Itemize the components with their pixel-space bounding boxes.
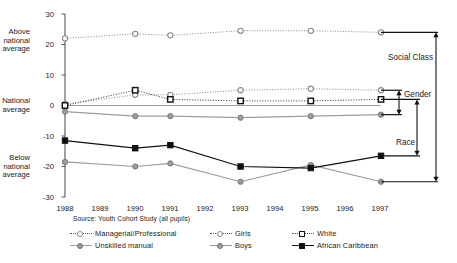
legend-label: Boys xyxy=(235,241,252,250)
data-point xyxy=(238,164,243,169)
data-point xyxy=(238,179,243,184)
data-point xyxy=(168,114,173,119)
legend-item-african-caribbean[interactable]: African Caribbean xyxy=(292,240,378,251)
legend-item-white[interactable]: White xyxy=(292,228,336,239)
series-unskilled-manual xyxy=(62,159,383,184)
data-point xyxy=(62,109,67,114)
data-point xyxy=(168,97,173,102)
data-point xyxy=(308,86,313,91)
data-point xyxy=(133,114,138,119)
series-managerial-professional xyxy=(62,28,383,41)
data-point xyxy=(238,28,243,33)
legend-item-girls[interactable]: Girls xyxy=(210,228,251,239)
series-girls xyxy=(62,86,383,106)
data-point xyxy=(62,138,67,143)
data-point xyxy=(168,161,173,166)
legend-symbol-gray-circle-solid xyxy=(210,241,232,250)
data-point xyxy=(308,98,313,103)
data-point xyxy=(133,164,138,169)
legend-label: White xyxy=(317,229,336,238)
legend-label: Managerial/Professional xyxy=(95,229,177,238)
axes xyxy=(62,14,382,197)
data-point xyxy=(62,159,67,164)
data-point xyxy=(308,165,313,170)
data-point xyxy=(133,146,138,151)
series-african-caribbean xyxy=(62,138,383,171)
data-point xyxy=(308,28,313,33)
legend-symbol-open-circle-dotted xyxy=(70,229,92,238)
legend-item-boys[interactable]: Boys xyxy=(210,240,252,251)
legend-label: Girls xyxy=(235,229,251,238)
data-point xyxy=(238,88,243,93)
arrow-social-class xyxy=(433,32,438,181)
annotation-arrows xyxy=(381,32,439,181)
plot-area xyxy=(0,0,457,263)
data-point xyxy=(238,98,243,103)
legend-item-unskilled-manual[interactable]: Unskilled manual xyxy=(70,240,153,251)
legend-label: Unskilled manual xyxy=(95,241,153,250)
data-point xyxy=(168,33,173,38)
arrow-gender xyxy=(396,90,401,114)
data-point xyxy=(62,36,67,41)
data-point xyxy=(133,88,138,93)
legend-symbol-black-square-solid xyxy=(292,241,314,250)
legend-symbol-open-circle-dotted xyxy=(210,229,232,238)
data-point xyxy=(133,31,138,36)
legend-item-managerial-professional[interactable]: Managerial/Professional xyxy=(70,228,177,239)
data-point xyxy=(308,114,313,119)
data-point xyxy=(168,142,173,147)
legend-label: African Caribbean xyxy=(317,241,378,250)
legend-symbol-open-square-dotted xyxy=(292,229,314,238)
arrow-race xyxy=(414,99,419,155)
data-point xyxy=(238,115,243,120)
series-boys xyxy=(62,109,383,120)
data-point xyxy=(62,103,67,108)
chart-figure: 30 20 10 0 -10 -20 -30 Above national av… xyxy=(0,0,457,263)
legend-symbol-gray-circle-solid xyxy=(70,241,92,250)
series-layer xyxy=(62,28,383,184)
chart-legend: Managerial/Professional Girls White Unsk… xyxy=(70,228,420,254)
